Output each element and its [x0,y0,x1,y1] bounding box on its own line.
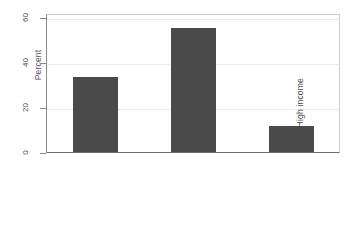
y-axis-title: Percent [33,35,43,95]
bar-medium-income [171,28,216,152]
bar-high-income [269,126,314,152]
y-tick-label-20: 20 [21,97,30,119]
x-tick-label-medium-income: Medium income [197,78,207,158]
y-tick-mark-0 [40,153,46,154]
x-tick-label-high-income: High income [295,78,305,158]
x-tick-label-low-income: Low income [99,78,109,158]
y-tick-label-40: 40 [21,52,30,74]
bar-low-income [73,77,118,152]
y-tick-label-60: 60 [21,7,30,29]
bar-chart: Percent 0 20 40 60 Low income Medium inc… [0,0,354,238]
y-tick-label-0: 0 [21,142,30,164]
